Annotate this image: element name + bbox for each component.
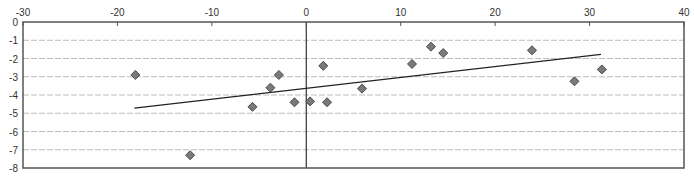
trendline-segment: [134, 54, 600, 108]
diamond-marker-icon: [274, 70, 283, 79]
diamond-marker-icon: [408, 59, 417, 68]
y-tick-label: -4: [9, 90, 18, 101]
y-tick-label: 0: [12, 17, 18, 28]
diamond-marker-icon: [186, 151, 195, 160]
y-tick-label: -1: [9, 35, 18, 46]
x-tick-label: 40: [678, 7, 690, 18]
x-axis-ticks: -30-20-10010203040: [16, 7, 690, 26]
diamond-marker-icon: [527, 46, 536, 55]
diamond-marker-icon: [597, 65, 606, 74]
x-tick-label: 0: [304, 7, 310, 18]
y-tick-label: -2: [9, 54, 18, 65]
y-tick-label: -5: [9, 108, 18, 119]
diamond-marker-icon: [131, 70, 140, 79]
y-tick-label: -6: [9, 127, 18, 138]
y-tick-label: -8: [9, 163, 18, 174]
x-tick-label: -20: [110, 7, 125, 18]
x-tick-label: -30: [16, 7, 31, 18]
y-tick-label: -7: [9, 145, 18, 156]
y-tick-label: -3: [9, 72, 18, 83]
scatter-chart: -30-20-10010203040 0-1-2-3-4-5-6-7-8: [0, 0, 694, 180]
x-tick-label: 10: [395, 7, 407, 18]
diamond-marker-icon: [248, 102, 257, 111]
diamond-marker-icon: [570, 77, 579, 86]
diamond-marker-icon: [306, 97, 315, 106]
diamond-marker-icon: [319, 61, 328, 70]
diamond-marker-icon: [357, 84, 366, 93]
diamond-marker-icon: [439, 49, 448, 58]
trendline: [134, 54, 600, 108]
diamond-marker-icon: [323, 98, 332, 107]
y-axis-ticks: 0-1-2-3-4-5-6-7-8: [9, 17, 18, 174]
diamond-marker-icon: [426, 42, 435, 51]
diamond-marker-icon: [290, 98, 299, 107]
x-tick-label: 30: [584, 7, 596, 18]
diamond-marker-icon: [266, 83, 275, 92]
x-tick-label: -10: [205, 7, 220, 18]
x-tick-label: 20: [490, 7, 502, 18]
